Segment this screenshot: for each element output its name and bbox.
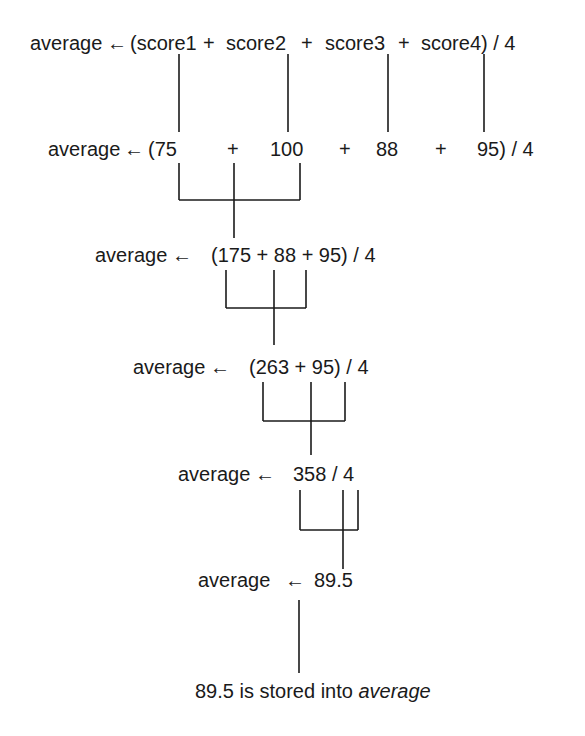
assign-arrow-icon: ← xyxy=(285,568,305,592)
step-6-expression: 89.5 xyxy=(314,568,353,592)
term-75: (75 xyxy=(148,137,177,161)
op-plus: + xyxy=(203,31,215,55)
term-score4: score4) / 4 xyxy=(421,31,515,55)
step-3-label: average xyxy=(95,243,167,267)
step-5-label: average xyxy=(178,462,250,486)
step-4-label: average xyxy=(133,355,205,379)
result-prefix: 89.5 is stored into xyxy=(195,680,358,702)
term-88: 88 xyxy=(376,137,398,161)
term-score1: (score1 xyxy=(130,31,197,55)
step-2-label: average xyxy=(48,137,120,161)
step-6-label: average xyxy=(198,568,270,592)
term-95: 95) / 4 xyxy=(477,137,534,161)
assign-arrow-icon: ← xyxy=(210,355,230,379)
op-plus: + xyxy=(339,137,351,161)
result-caption: 89.5 is stored into average xyxy=(195,679,431,703)
op-plus: + xyxy=(435,137,447,161)
term-100: 100 xyxy=(270,137,303,161)
assign-arrow-icon: ← xyxy=(124,137,144,161)
op-plus: + xyxy=(301,31,313,55)
assign-arrow-icon: ← xyxy=(255,462,275,486)
step-3-expression: (175 + 88 + 95) / 4 xyxy=(211,243,376,267)
assign-arrow-icon: ← xyxy=(172,243,192,267)
step-1-label: average xyxy=(30,31,102,55)
term-score3: score3 xyxy=(325,31,385,55)
step-5-expression: 358 / 4 xyxy=(293,462,354,486)
op-plus: + xyxy=(227,137,239,161)
term-score2: score2 xyxy=(226,31,286,55)
step-4-expression: (263 + 95) / 4 xyxy=(249,355,369,379)
result-variable: average xyxy=(358,680,430,702)
op-plus: + xyxy=(398,31,410,55)
assign-arrow-icon: ← xyxy=(107,31,127,55)
